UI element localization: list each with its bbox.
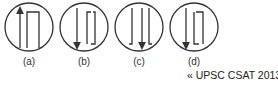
source-citation: « UPSC CSAT 2013: [187, 69, 278, 81]
option-c-figure: [115, 3, 163, 51]
option-b-figure: [60, 3, 108, 51]
double-chevron-icon: «: [187, 69, 193, 81]
source-text: UPSC CSAT 2013: [196, 69, 278, 81]
option-c-label: (c): [133, 56, 145, 67]
option-d-figure: [170, 3, 218, 51]
option-a-figure: [5, 3, 53, 51]
option-d-label: (d): [188, 56, 200, 67]
option-b-label: (b): [78, 56, 90, 67]
option-a-label: (a): [23, 56, 35, 67]
